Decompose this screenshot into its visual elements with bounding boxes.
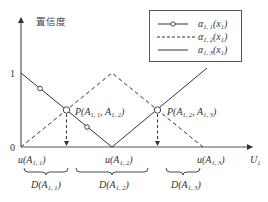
brace-d-a12 (76, 168, 148, 175)
x-tick-u-a11: u(A1, 1) (18, 154, 46, 166)
domain-label-d-a11: D(A1, 1) (30, 179, 61, 191)
domain-label-d-a12: D(A1, 2) (98, 179, 129, 191)
legend-label-alpha-1-3: α1, 3(x1) (198, 44, 228, 56)
intersection-label-1: P(A1, 1, A1, 2) (74, 106, 125, 118)
x-tick-u-a12: u(A1, 2) (105, 154, 133, 166)
y-tick-0: 0 (10, 142, 15, 153)
circle-marker (85, 125, 90, 130)
y-tick-1: 1 (10, 68, 15, 79)
membership-function-diagram: 置信度 1 0 P(A1, 1, A1, 2) P(A1, 2, A1, 3) … (0, 0, 268, 202)
brace-d-a13 (166, 168, 200, 175)
brace-d-a11 (24, 168, 68, 175)
legend-label-alpha-1-1: α1, 1(x1) (198, 18, 228, 30)
intersection-p12-13-marker (154, 107, 160, 113)
y-axis-label: 置信度 (36, 16, 66, 27)
legend-circle-marker-icon (171, 22, 175, 26)
x-tick-u-a13: u(A1, 3) (197, 154, 225, 166)
circle-marker (38, 86, 43, 91)
intersection-p11-12-marker (63, 107, 69, 113)
intersection-label-2: P(A1, 2, A1, 3) (166, 106, 217, 118)
legend: α1, 1(x1) α1, 2(x1) α1, 3(x1) (150, 11, 242, 62)
x-axis-label: U1 (250, 154, 260, 166)
domain-label-d-a13: D(A1, 3) (170, 179, 201, 191)
legend-label-alpha-1-2: α1, 2(x1) (198, 31, 228, 43)
